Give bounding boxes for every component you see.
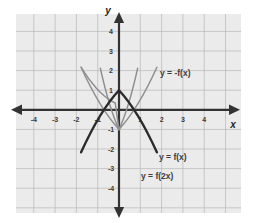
x-tick--3: -3	[52, 116, 58, 123]
y-tick-3: 3	[109, 48, 113, 55]
y-tick-4: 4	[109, 28, 113, 35]
x-tick--2: -2	[73, 116, 79, 123]
y-tick-1: 1	[109, 87, 113, 94]
coordinate-plane-graph: x y -4 -3 -2 -1 1 2 3 4 4 3 2 1 -1 -2 -3…	[0, 0, 254, 223]
graph-figure: x y -4 -3 -2 -1 1 2 3 4 4 3 2 1 -1 -2 -3…	[0, 0, 254, 223]
x-tick--4: -4	[31, 116, 37, 123]
x-axis-name: x	[229, 119, 236, 130]
y-axis-name: y	[104, 5, 111, 16]
y-tick-2: 2	[109, 67, 113, 74]
label-neg-f-of-x: y = -f(x)	[160, 68, 191, 78]
label-f-of-2x: y = f(2x)	[141, 171, 174, 181]
y-tick--4: -4	[108, 185, 114, 192]
label-f-of-x: y = f(x)	[159, 152, 187, 162]
x-tick-3: 3	[181, 116, 185, 123]
y-tick--2: -2	[108, 146, 114, 153]
plot-background	[16, 14, 241, 213]
x-tick-2: 2	[160, 116, 164, 123]
x-tick-4: 4	[202, 116, 206, 123]
y-tick--3: -3	[108, 165, 114, 172]
y-tick--1: -1	[108, 126, 114, 133]
